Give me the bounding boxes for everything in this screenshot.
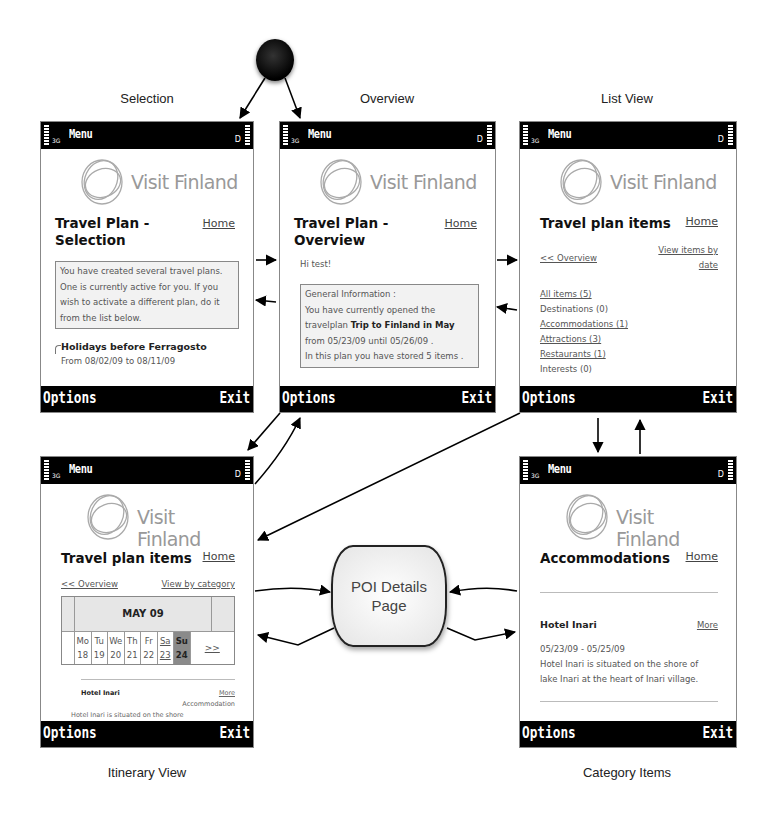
battery-label: D xyxy=(718,470,724,479)
visit-finland-logo: Visit Finland xyxy=(540,490,718,546)
plan-name[interactable]: Holidays before Ferragosto xyxy=(61,339,239,354)
caption-selection: Selection xyxy=(47,91,247,106)
caption-overview: Overview xyxy=(287,91,487,106)
home-link[interactable]: Home xyxy=(203,550,235,563)
status-bar: 3G Menu D xyxy=(520,122,736,149)
info-line: travelplan Trip to Finland in May xyxy=(305,318,474,334)
logo-rings-icon xyxy=(77,155,127,207)
info-line: You have currently opened the xyxy=(305,303,474,319)
options-softkey[interactable]: Options xyxy=(282,389,336,407)
status-bar: 3G Menu D xyxy=(41,122,253,149)
page-title: Accommodations xyxy=(540,550,690,567)
home-link[interactable]: Home xyxy=(686,215,718,228)
menu-button[interactable]: Menu xyxy=(548,461,571,476)
menu-button[interactable]: Menu xyxy=(69,126,92,141)
category-item-destinations: Destinations (0) xyxy=(540,302,722,317)
home-link[interactable]: Home xyxy=(445,217,477,230)
view-by-category-link[interactable]: View by category xyxy=(161,578,235,590)
options-softkey[interactable]: Options xyxy=(43,389,97,407)
exit-softkey[interactable]: Exit xyxy=(461,389,492,407)
page-title: Travel plan items xyxy=(534,215,690,232)
battery-icon xyxy=(487,125,492,146)
brand-text: Visit Finland xyxy=(370,171,477,193)
battery-icon xyxy=(728,125,733,146)
brand-text: Visit Finland xyxy=(137,506,235,550)
brand-text: Visit Finland xyxy=(131,171,238,193)
softkey-bar: Options Exit xyxy=(280,386,495,412)
softkey-bar: Options Exit xyxy=(520,386,736,412)
back-to-overview-link[interactable]: << Overview xyxy=(61,578,118,590)
page-title: Travel Plan - Selection xyxy=(55,215,185,249)
calendar-pad xyxy=(62,597,75,631)
category-item-accommodations[interactable]: Accommodations (1) xyxy=(540,317,722,332)
brand-text: Visit Finland xyxy=(616,506,718,550)
network-indicator: 3G xyxy=(291,137,299,144)
visit-finland-logo: Visit Finland xyxy=(55,155,239,211)
softkey-bar: Options Exit xyxy=(41,386,253,412)
calendar-month: MAY 09 xyxy=(75,597,211,631)
exit-softkey[interactable]: Exit xyxy=(702,389,733,407)
more-link[interactable]: More xyxy=(697,619,718,631)
calendar-day-selected[interactable]: Su24 xyxy=(174,632,191,664)
divider xyxy=(81,679,235,680)
calendar-day[interactable]: Sa23 xyxy=(158,632,175,664)
battery-label: D xyxy=(235,135,241,144)
screen-category-items: 3G Menu D Visit Finland Accommodations H… xyxy=(519,456,737,748)
category-item-restaurants[interactable]: Restaurants (1) xyxy=(540,347,722,362)
next-week-button[interactable]: >> xyxy=(191,632,235,664)
menu-button[interactable]: Menu xyxy=(548,126,571,141)
visit-finland-logo: Visit Finland xyxy=(294,155,481,211)
greeting: Hi test! xyxy=(300,257,481,272)
item-type: Accommodation xyxy=(81,699,235,710)
poi-details-node: POI Details Page xyxy=(331,545,447,647)
exit-softkey[interactable]: Exit xyxy=(219,724,250,742)
battery-icon xyxy=(245,460,250,481)
battery-label: D xyxy=(718,135,724,144)
status-bar: 3G Menu D xyxy=(41,457,253,484)
more-link[interactable]: More xyxy=(219,688,235,699)
item-name[interactable]: Hotel Inari xyxy=(81,688,235,699)
battery-icon xyxy=(728,460,733,481)
exit-softkey[interactable]: Exit xyxy=(702,724,733,742)
screen-itinerary-view: 3G Menu D Visit Finland Travel plan item… xyxy=(40,456,254,748)
logo-rings-icon xyxy=(316,155,366,207)
battery-label: D xyxy=(477,135,483,144)
page-title: Travel Plan - Overview xyxy=(294,215,424,249)
softkey-bar: Options Exit xyxy=(41,721,253,747)
calendar-day[interactable]: We20 xyxy=(108,632,125,664)
home-link[interactable]: Home xyxy=(203,217,235,230)
battery-icon xyxy=(245,125,250,146)
radio-icon[interactable] xyxy=(55,345,61,354)
network-indicator: 3G xyxy=(531,137,539,144)
signal-icon xyxy=(523,460,528,481)
view-by-date-link[interactable]: View items by date xyxy=(638,243,718,273)
calendar-day[interactable]: Mo18 xyxy=(75,632,92,664)
options-softkey[interactable]: Options xyxy=(43,724,97,742)
network-indicator: 3G xyxy=(52,472,60,479)
category-list: All items (5) Destinations (0) Accommoda… xyxy=(540,287,722,377)
calendar-day[interactable]: Th21 xyxy=(125,632,142,664)
plan-dates: From 08/02/09 to 08/11/09 xyxy=(61,354,239,369)
category-item-attractions[interactable]: Attractions (3) xyxy=(540,332,722,347)
info-line: In this plan you have stored 5 items . xyxy=(305,349,474,365)
options-softkey[interactable]: Options xyxy=(522,389,576,407)
menu-button[interactable]: Menu xyxy=(308,126,331,141)
category-item-all[interactable]: All items (5) xyxy=(540,287,722,302)
back-to-overview-link[interactable]: << Overview xyxy=(540,251,597,266)
caption-category-items: Category Items xyxy=(527,765,727,780)
menu-button[interactable]: Menu xyxy=(69,461,92,476)
page-title: Travel plan items xyxy=(61,550,211,567)
exit-softkey[interactable]: Exit xyxy=(219,389,250,407)
start-node xyxy=(256,39,294,81)
divider xyxy=(540,592,718,593)
options-softkey[interactable]: Options xyxy=(522,724,576,742)
calendar-day[interactable]: Tu19 xyxy=(92,632,109,664)
home-link[interactable]: Home xyxy=(686,550,718,563)
visit-finland-logo: Visit Finland xyxy=(534,155,722,211)
softkey-bar: Options Exit xyxy=(520,721,736,747)
logo-rings-icon xyxy=(83,490,133,542)
item-name[interactable]: Hotel Inari xyxy=(540,619,718,630)
calendar-day[interactable]: Fr22 xyxy=(141,632,158,664)
calendar-pad xyxy=(211,597,234,631)
general-info-box: General Information : You have currently… xyxy=(300,284,479,368)
